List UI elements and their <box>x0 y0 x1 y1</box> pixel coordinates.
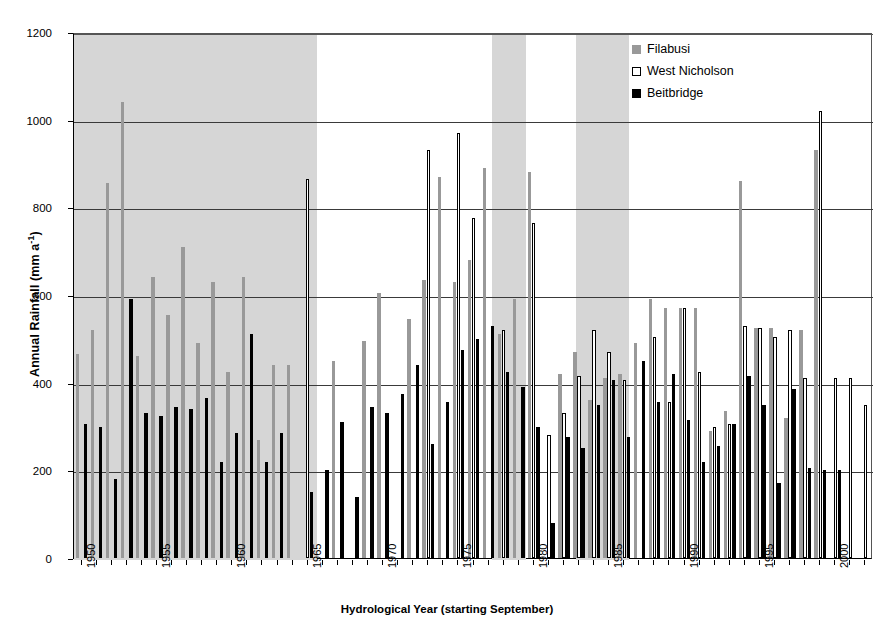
x-tick-mark-1984 <box>593 560 594 565</box>
bar-beitbridge-1989 <box>672 374 675 558</box>
gridline-1200 <box>74 34 873 35</box>
bar-beitbridge-1992 <box>717 446 720 558</box>
y-tick-mark-400 <box>68 384 73 385</box>
bar-west-nicholson-1973 <box>427 150 430 558</box>
rainfall-bar-chart: Annual Rainfall (mm a-1) 020040060080010… <box>0 0 894 633</box>
bar-beitbridge-1984 <box>597 405 600 558</box>
bar-west-nicholson-2002 <box>864 405 867 558</box>
bar-beitbridge-1952 <box>114 479 117 558</box>
bar-west-nicholson-1996 <box>773 337 776 558</box>
bar-filabusi-1976 <box>468 260 471 558</box>
bar-filabusi-1982 <box>558 374 561 558</box>
bar-west-nicholson-2001 <box>849 378 852 558</box>
bar-west-nicholson-1984 <box>592 330 595 558</box>
bar-beitbridge-1990 <box>687 420 690 558</box>
gridline-1000 <box>74 122 873 123</box>
bar-west-nicholson-1980 <box>532 223 535 558</box>
y-tick-label-1000: 1000 <box>6 115 52 127</box>
x-tick-label-2000: 2000 <box>838 544 850 568</box>
x-tick-mark-1953 <box>126 560 127 565</box>
y-tick-label-200: 200 <box>6 465 52 477</box>
x-tick-mark-1990 <box>684 560 685 565</box>
x-tick-label-1975: 1975 <box>461 544 473 568</box>
bar-beitbridge-1985 <box>612 380 615 558</box>
bar-west-nicholson-1990 <box>683 308 686 558</box>
bar-filabusi-1978 <box>498 334 501 558</box>
bar-west-nicholson-1993 <box>728 424 731 558</box>
bar-filabusi-1969 <box>362 341 365 558</box>
bar-beitbridge-1998 <box>808 468 811 558</box>
bar-filabusi-1993 <box>724 411 727 558</box>
x-tick-mark-1968 <box>352 560 353 565</box>
bar-filabusi-1999 <box>814 150 817 558</box>
bar-beitbridge-1967 <box>340 422 343 558</box>
bar-beitbridge-1959 <box>220 462 223 558</box>
bar-west-nicholson-1985 <box>607 352 610 558</box>
legend-label: Beitbridge <box>647 86 703 100</box>
bar-filabusi-1952 <box>106 183 109 558</box>
plot-area <box>73 33 872 559</box>
bar-filabusi-1988 <box>649 299 652 558</box>
bar-filabusi-1953 <box>121 102 124 558</box>
legend-item-west-nicholson[interactable]: West Nicholson <box>632 60 734 82</box>
x-tick-mark-1957 <box>186 560 187 565</box>
bar-west-nicholson-1975 <box>457 133 460 558</box>
bar-filabusi-1960 <box>226 372 229 558</box>
bar-beitbridge-1950 <box>84 424 87 558</box>
x-tick-mark-1978 <box>503 560 504 565</box>
bar-filabusi-1961 <box>242 277 245 558</box>
bar-filabusi-1995 <box>754 328 757 558</box>
bar-filabusi-1991 <box>694 308 697 558</box>
bar-beitbridge-1993 <box>732 424 735 558</box>
bar-beitbridge-1982 <box>566 437 569 558</box>
bar-west-nicholson-1983 <box>577 376 580 558</box>
legend-swatch-icon-filabusi <box>632 45 641 54</box>
x-tick-mark-1983 <box>578 560 579 565</box>
bar-filabusi-1989 <box>664 308 667 558</box>
y-tick-label-600: 600 <box>6 290 52 302</box>
x-tick-mark-1988 <box>653 560 654 565</box>
x-tick-mark-1972 <box>412 560 413 565</box>
x-tick-label-1980: 1980 <box>537 544 549 568</box>
bar-beitbridge-1958 <box>205 398 208 558</box>
bar-filabusi-1975 <box>453 282 456 558</box>
y-tick-mark-800 <box>68 208 73 209</box>
bar-filabusi-1959 <box>211 282 214 558</box>
x-tick-mark-1973 <box>427 560 428 565</box>
y-tick-mark-200 <box>68 471 73 472</box>
x-tick-label-1955: 1955 <box>160 544 172 568</box>
bar-west-nicholson-1994 <box>743 326 746 558</box>
bar-beitbridge-1955 <box>159 416 162 558</box>
x-tick-mark-2002 <box>864 560 865 565</box>
x-tick-mark-1998 <box>804 560 805 565</box>
bar-beitbridge-1995 <box>762 405 765 558</box>
x-tick-mark-1964 <box>292 560 293 565</box>
bar-west-nicholson-1981 <box>547 435 550 558</box>
y-tick-mark-1000 <box>68 121 73 122</box>
bar-beitbridge-1957 <box>189 409 192 558</box>
bar-filabusi-1963 <box>272 365 275 558</box>
bar-filabusi-1992 <box>709 431 712 558</box>
x-axis-title: Hydrological Year (starting September) <box>0 603 894 615</box>
bar-beitbridge-1979 <box>521 387 524 558</box>
bar-west-nicholson-1988 <box>653 337 656 558</box>
x-tick-mark-1958 <box>201 560 202 565</box>
bar-beitbridge-1973 <box>431 444 434 558</box>
bar-filabusi-1977 <box>483 168 486 558</box>
bar-beitbridge-1981 <box>551 523 554 558</box>
bar-beitbridge-1954 <box>144 413 147 558</box>
y-tick-label-1200: 1200 <box>6 27 52 39</box>
legend-item-filabusi[interactable]: Filabusi <box>632 38 734 60</box>
bar-filabusi-1984 <box>588 400 591 558</box>
bar-filabusi-1979 <box>513 299 516 558</box>
legend-item-beitbridge[interactable]: Beitbridge <box>632 82 734 104</box>
x-tick-label-1990: 1990 <box>688 544 700 568</box>
bar-filabusi-1987 <box>634 343 637 558</box>
x-tick-mark-1993 <box>729 560 730 565</box>
bar-beitbridge-1968 <box>355 497 358 558</box>
y-axis-tick-labels: 020040060080010001200 <box>0 0 52 633</box>
legend-swatch-icon-beitbridge <box>632 89 641 98</box>
x-tick-mark-1954 <box>141 560 142 565</box>
x-tick-mark-1974 <box>442 560 443 565</box>
bar-beitbridge-1999 <box>823 470 826 558</box>
